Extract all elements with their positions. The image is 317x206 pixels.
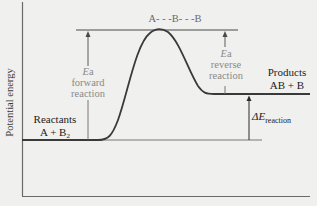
ea-forward-arrowhead-icon — [86, 31, 91, 37]
ea-reverse-line1: reverse — [200, 59, 252, 70]
delta-e-symbol: ΔE — [252, 110, 265, 122]
products-formula: AB + B — [258, 79, 316, 92]
ea-forward-line1: forward — [60, 77, 116, 88]
energy-diagram: Potential energy A- - -B- - -B Ea forwar… — [0, 0, 317, 206]
ea-reverse-label: Ea reverse reaction — [200, 48, 252, 81]
products-label: Products AB + B — [258, 66, 316, 92]
reactants-label: Reactants A + B2 — [24, 113, 86, 143]
reactants-formula-subscript: 2 — [66, 132, 70, 140]
ea-forward-label: Ea forward reaction — [60, 66, 116, 99]
ea-reverse-suffix: a — [227, 48, 232, 59]
reactants-title: Reactants — [24, 113, 86, 126]
delta-e-subscript: reaction — [265, 116, 291, 125]
y-axis-label: Potential energy — [4, 58, 15, 148]
delta-e-label: ΔEreaction — [252, 110, 316, 127]
energy-profile-plot — [0, 0, 317, 206]
ea-reverse-arrowhead-icon — [223, 31, 228, 37]
delta-e-arrowhead-icon — [247, 96, 252, 102]
ea-forward-suffix: a — [89, 66, 94, 77]
ea-reverse-line2: reaction — [200, 70, 252, 81]
products-title: Products — [258, 66, 316, 79]
ea-forward-line2: reaction — [60, 88, 116, 99]
reactants-formula: A + B — [40, 126, 66, 138]
transition-state-label: A- - -B- - -B — [130, 13, 220, 24]
